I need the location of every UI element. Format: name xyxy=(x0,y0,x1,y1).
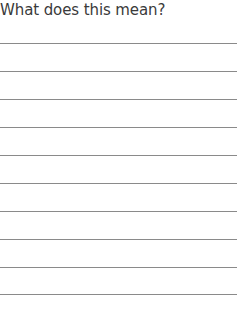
answer-line-3[interactable] xyxy=(0,99,237,100)
answer-line-10[interactable] xyxy=(0,294,237,295)
answer-line-2[interactable] xyxy=(0,71,237,72)
question-prompt: What does this mean? xyxy=(0,0,165,20)
answer-line-1[interactable] xyxy=(0,43,237,44)
answer-line-4[interactable] xyxy=(0,127,237,128)
answer-line-8[interactable] xyxy=(0,239,237,240)
answer-line-9[interactable] xyxy=(0,267,237,268)
answer-line-6[interactable] xyxy=(0,183,237,184)
answer-line-5[interactable] xyxy=(0,155,237,156)
answer-line-7[interactable] xyxy=(0,211,237,212)
